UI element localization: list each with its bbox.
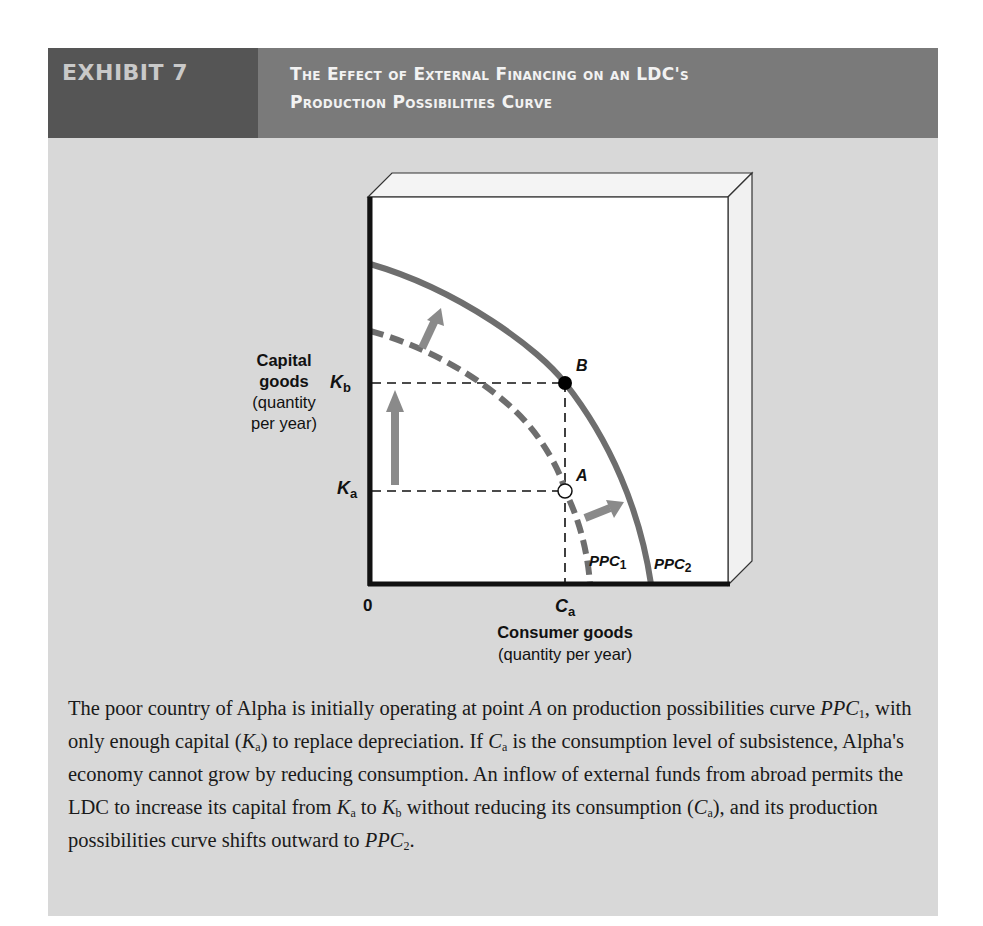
- point-b-marker: [558, 376, 572, 390]
- ppc1-label: PPC1: [589, 552, 627, 572]
- y-axis-label-line3: (quantity: [234, 392, 334, 413]
- box-side-face: [728, 173, 752, 585]
- caption-ppc1: PPC: [820, 697, 859, 719]
- x-axis-label: Consumer goods (quantity per year): [430, 621, 700, 665]
- ppc1-label-sub: 1: [620, 558, 627, 572]
- caption-text: The poor country of Alpha is initially o…: [68, 697, 529, 719]
- ppc1-label-main: PPC: [589, 552, 620, 569]
- exhibit-caption: The poor country of Alpha is initially o…: [68, 692, 918, 857]
- caption-c: C: [694, 796, 708, 818]
- point-a-marker: [558, 484, 572, 498]
- caption-point-a: A: [529, 697, 542, 719]
- tick-ca-sub: a: [568, 604, 575, 619]
- caption-ppc2: PPC: [365, 829, 404, 851]
- y-axis-label-line1: Capital: [234, 350, 334, 371]
- caption-text: ) to replace depreciation. If: [261, 730, 489, 752]
- origin-label: 0: [363, 596, 372, 616]
- tick-ka: Ka: [337, 478, 357, 501]
- caption-k: K: [337, 796, 351, 818]
- x-axis-label-sub: (quantity per year): [430, 643, 700, 665]
- ppc2-label: PPC2: [654, 555, 692, 575]
- y-axis-label-line4: per year): [234, 413, 334, 434]
- point-a-label: A: [576, 467, 588, 485]
- box-top-face: [368, 173, 752, 197]
- caption-text: on production possibilities curve: [542, 697, 820, 719]
- tick-kb-main: K: [330, 372, 343, 392]
- caption-text: to: [356, 796, 382, 818]
- x-axis-label-bold: Consumer goods: [430, 621, 700, 643]
- caption-k: K: [382, 796, 396, 818]
- tick-ka-sub: a: [350, 486, 357, 501]
- ppc2-label-main: PPC: [654, 555, 685, 572]
- y-axis-label: Capital goods (quantity per year): [234, 350, 334, 434]
- tick-kb: Kb: [330, 372, 351, 395]
- tick-ka-main: K: [337, 478, 350, 498]
- tick-kb-sub: b: [343, 380, 351, 395]
- ppc2-label-sub: 2: [685, 561, 692, 575]
- caption-text: without reducing its consumption (: [402, 796, 694, 818]
- tick-ca: Ca: [555, 596, 575, 619]
- tick-ca-main: C: [555, 596, 568, 616]
- caption-k: K: [242, 730, 256, 752]
- y-axis-label-line2: goods: [234, 371, 334, 392]
- caption-text: .: [409, 829, 414, 851]
- point-b-label: B: [576, 357, 588, 375]
- plot-area: [368, 197, 728, 585]
- caption-c: C: [488, 730, 502, 752]
